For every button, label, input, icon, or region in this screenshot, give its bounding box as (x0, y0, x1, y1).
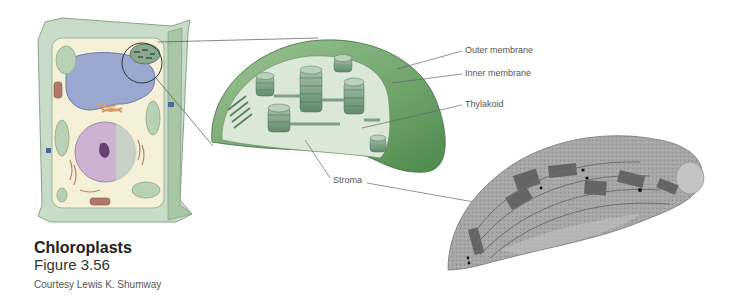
plant-cell-illustration (38, 18, 192, 222)
label-stroma: Stroma (333, 175, 362, 185)
label-thylakoid: Thylakoid (465, 99, 504, 109)
label-inner-membrane: Inner membrane (465, 68, 531, 78)
diagram-canvas (0, 0, 735, 308)
chloroplast-3d-illustration (212, 40, 446, 172)
label-outer-membrane: Outer membrane (465, 45, 533, 55)
figure-title: Chloroplasts (34, 239, 132, 257)
figure-number: Figure 3.56 (34, 256, 110, 273)
electron-micrograph (448, 136, 704, 270)
figure-credit: Courtesy Lewis K. Shumway (34, 279, 161, 290)
